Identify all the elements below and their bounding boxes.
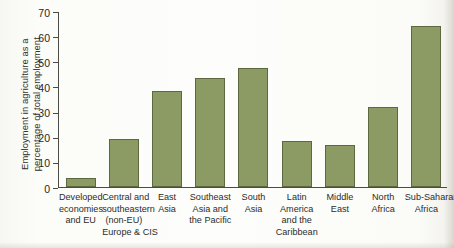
bar[interactable] xyxy=(411,26,441,187)
x-axis-category-label: NorthAfrica xyxy=(362,192,405,215)
x-axis-category-labels: Developedeconomiesand EUCentral andsouth… xyxy=(59,192,448,248)
y-axis-tick-label: 20 xyxy=(38,132,50,144)
bar-slot xyxy=(102,12,145,187)
y-axis-tick-label: 40 xyxy=(38,82,50,94)
y-axis-tick-label: 0 xyxy=(44,183,50,195)
x-axis-category-label: SouthAsia xyxy=(232,192,275,215)
x-axis-category-label-line: (non-EU) xyxy=(102,215,145,227)
bar[interactable] xyxy=(282,141,312,188)
plot-area: 010203040506070 xyxy=(58,12,447,188)
x-axis-category-label-line: East xyxy=(318,204,361,216)
x-axis-category-label-line: South xyxy=(232,192,275,204)
x-axis-category-label-line: Central and xyxy=(102,192,145,204)
x-axis-category-label-line: the Pacific xyxy=(189,215,232,227)
x-axis-category-label: Central andsoutheastern(non-EU)Europe & … xyxy=(102,192,145,238)
x-axis-category-label-line: East xyxy=(145,192,188,204)
bar-chart-figure: Employment in agriculture as a percentag… xyxy=(0,0,454,248)
x-axis-category-label-line: Sub-Saharan xyxy=(405,192,448,204)
bar-slot xyxy=(59,12,102,187)
x-axis-category-label-line: Africa xyxy=(405,204,448,216)
x-axis-category-label-line: Asia xyxy=(145,204,188,216)
y-axis-tick: 20 xyxy=(53,138,58,139)
x-axis-category-label-line: Africa xyxy=(362,204,405,216)
bar-slot xyxy=(275,12,318,187)
y-axis-tick: 10 xyxy=(53,163,58,164)
y-axis-tick-label: 70 xyxy=(38,7,50,19)
x-axis-category-label-line: Middle xyxy=(318,192,361,204)
bar[interactable] xyxy=(152,91,182,187)
bar-slot xyxy=(318,12,361,187)
x-axis-category-label-line: and the xyxy=(275,215,318,227)
bar-slot xyxy=(232,12,275,187)
y-axis-title-line-1: Employment in agriculture as a xyxy=(19,12,31,197)
x-axis-category-label-line: and EU xyxy=(59,215,102,227)
y-axis-tick-label: 60 xyxy=(38,32,50,44)
x-axis-category-label-line: Europe & CIS xyxy=(102,227,145,239)
y-axis-tick-label: 30 xyxy=(38,107,50,119)
x-axis-category-label: Developedeconomiesand EU xyxy=(59,192,102,227)
x-axis-category-label-line: Asia and xyxy=(189,204,232,216)
bar-slot xyxy=(362,12,405,187)
y-axis-tick-label: 10 xyxy=(38,157,50,169)
bar[interactable] xyxy=(325,145,355,187)
x-axis-category-label-line: Latin xyxy=(275,192,318,204)
y-axis-tick: 70 xyxy=(53,12,58,13)
x-axis-category-label: SoutheastAsia andthe Pacific xyxy=(189,192,232,227)
x-axis-category-label: Sub-SaharanAfrica xyxy=(405,192,448,215)
bar[interactable] xyxy=(109,139,139,187)
bar-slot xyxy=(405,12,448,187)
x-axis-category-label-line: economies xyxy=(59,204,102,216)
bar-slot xyxy=(189,12,232,187)
x-axis-line xyxy=(58,187,447,188)
bar[interactable] xyxy=(66,178,96,187)
y-axis-tick: 30 xyxy=(53,113,58,114)
bar[interactable] xyxy=(368,107,398,187)
y-axis-tick-label: 50 xyxy=(38,57,50,69)
x-axis-category-label: EastAsia xyxy=(145,192,188,215)
x-axis-category-label-line: North xyxy=(362,192,405,204)
bar[interactable] xyxy=(238,68,268,187)
x-axis-category-label-line: southeastern xyxy=(102,204,145,216)
bar[interactable] xyxy=(195,78,225,187)
x-axis-category-label: LatinAmericaand theCaribbean xyxy=(275,192,318,238)
x-axis-category-label-line: Caribbean xyxy=(275,227,318,239)
x-axis-category-label-line: Developed xyxy=(59,192,102,204)
bar-slot xyxy=(145,12,188,187)
x-axis-category-label-line: America xyxy=(275,204,318,216)
y-axis-tick: 40 xyxy=(53,87,58,88)
x-axis-category-label-line: Asia xyxy=(232,204,275,216)
y-axis-tick: 50 xyxy=(53,62,58,63)
x-axis-category-label-line: Southeast xyxy=(189,192,232,204)
x-axis-category-label: MiddleEast xyxy=(318,192,361,215)
bars-layer xyxy=(59,12,447,187)
y-axis-tick: 60 xyxy=(53,37,58,38)
y-axis-tick: 0 xyxy=(53,188,58,189)
